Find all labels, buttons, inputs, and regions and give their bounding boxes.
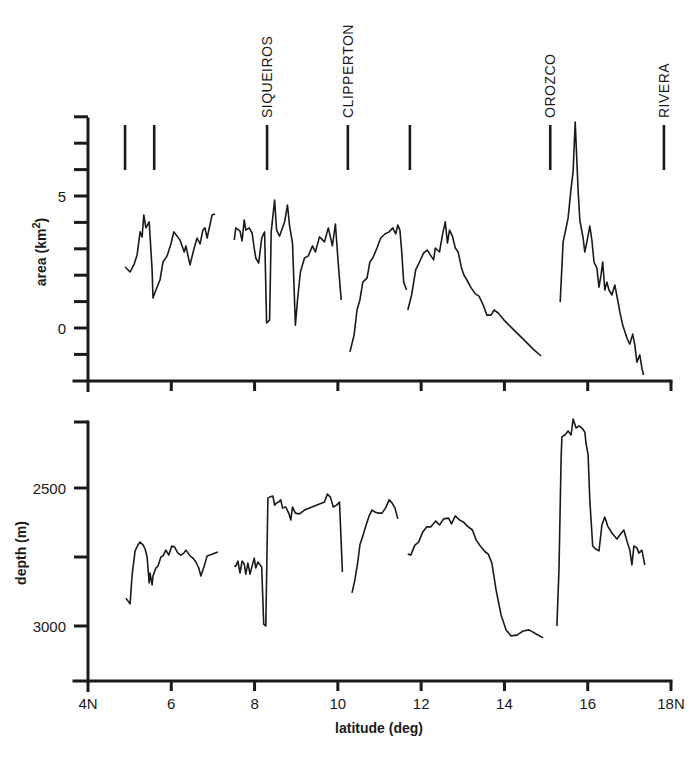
area-trace-segment-1: [125, 214, 215, 298]
upper-ytick-label-0: 0: [58, 320, 66, 337]
x-tick-label: 18N: [657, 695, 685, 712]
area-trace-segment-4: [408, 222, 541, 356]
lower-x-ticks: [88, 681, 671, 692]
upper-ytick-label-5: 5: [58, 188, 66, 205]
fracture-zone-label: SIQUEIROS: [259, 36, 275, 118]
x-tick-labels: 4N681012141618N: [78, 695, 684, 712]
depth-trace-segment-2: [234, 494, 342, 626]
fracture-zone-label: RIVERA: [656, 63, 672, 118]
depth-trace-segment-3: [352, 500, 398, 593]
upper-x-ticks: [88, 381, 671, 392]
x-axis-label: latitude (deg): [335, 720, 423, 736]
area-trace-segment-2: [234, 200, 341, 325]
depth-trace-segment-4: [408, 516, 543, 638]
lower-ytick-label-2500: 2500: [33, 480, 66, 497]
area-trace-segment-3: [350, 225, 407, 352]
depth-traces: [126, 419, 645, 638]
chart-figure: 5 0 area (km2) SIQUEIROSCLIPPERTONOROZCO…: [0, 0, 698, 758]
depth-trace-segment-1: [126, 542, 218, 604]
x-tick-label: 12: [413, 695, 430, 712]
fracture-zone-label: OROZCO: [542, 54, 558, 118]
area-traces: [125, 122, 643, 375]
x-tick-label: 6: [167, 695, 175, 712]
area-trace-segment-5: [560, 122, 643, 375]
upper-y-ticks: [74, 117, 88, 355]
fracture-zone-markers: SIQUEIROSCLIPPERTONOROZCORIVERA: [125, 24, 672, 170]
x-tick-label: 16: [579, 695, 596, 712]
x-tick-label: 4N: [78, 695, 97, 712]
fracture-zone-label: CLIPPERTON: [340, 24, 356, 118]
upper-y-axis-label: area (km2): [30, 218, 49, 286]
upper-panel-area: 5 0 area (km2) SIQUEIROSCLIPPERTONOROZCO…: [30, 24, 672, 392]
lower-ytick-label-3000: 3000: [33, 618, 66, 635]
lower-y-axis-label: depth (m): [13, 521, 29, 585]
x-tick-label: 8: [250, 695, 258, 712]
lower-panel-depth: 2500 3000 depth (m): [13, 419, 671, 692]
x-tick-label: 14: [496, 695, 513, 712]
x-tick-label: 10: [330, 695, 347, 712]
lower-y-ticks: [74, 488, 88, 626]
depth-trace-segment-5: [557, 419, 645, 626]
